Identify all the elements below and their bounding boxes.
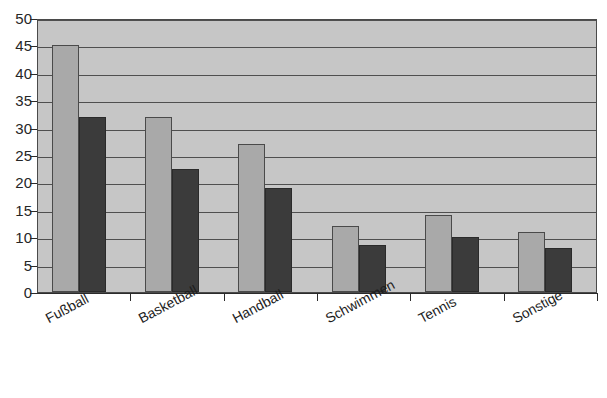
x-axis-tick-mark xyxy=(597,294,598,301)
x-axis-tick-mark xyxy=(410,294,411,301)
y-axis-tick-mark xyxy=(30,74,37,75)
x-axis-label-handball: Handball xyxy=(230,287,285,325)
x-axis-tick-mark xyxy=(130,294,131,301)
y-axis-tick-mark xyxy=(30,211,37,212)
y-axis-tick-mark xyxy=(30,46,37,47)
x-axis-tick-mark xyxy=(317,294,318,301)
x-axis-label-tennis: Tennis xyxy=(416,294,458,325)
y-axis-tick-mark xyxy=(30,266,37,267)
y-axis-tick-mark xyxy=(30,156,37,157)
x-axis-label-fußball: Fußball xyxy=(43,291,91,325)
y-axis-tick-mark xyxy=(30,19,37,20)
x-axis-label-schwimmen: Schwimmen xyxy=(323,277,397,325)
y-axis-tick-mark xyxy=(30,129,37,130)
x-axis-label-basketball: Basketball xyxy=(136,283,200,326)
y-axis-tick-mark xyxy=(30,293,37,294)
y-axis-tick-mark xyxy=(30,101,37,102)
x-axis-label-sonstige: Sonstige xyxy=(510,287,565,325)
x-axis-tick-mark xyxy=(224,294,225,301)
x-axis-category-labels: FußballBasketballHandballSchwimmenTennis… xyxy=(0,0,607,398)
y-axis-tick-mark xyxy=(30,238,37,239)
bar-chart: 05101520253035404550 FußballBasketballHa… xyxy=(0,0,607,398)
y-axis-tick-mark xyxy=(30,183,37,184)
x-axis-tick-mark xyxy=(504,294,505,301)
